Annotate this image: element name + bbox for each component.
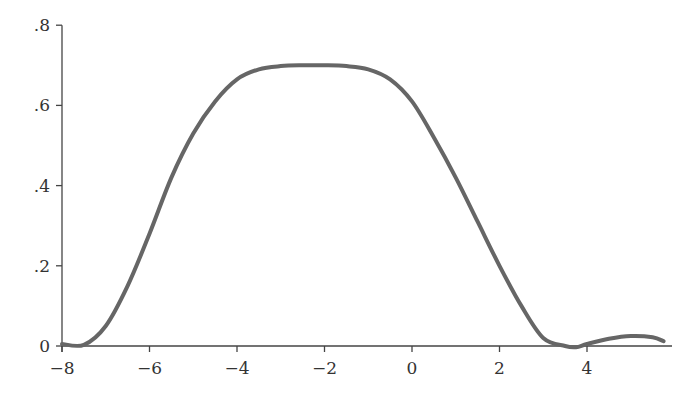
y-tick-label: .2 bbox=[34, 256, 50, 276]
tick-labels: 0.2.4.6.8−8−6−4−2024 bbox=[34, 15, 593, 378]
x-tick-label: −2 bbox=[312, 358, 337, 378]
y-tick-label: .6 bbox=[34, 95, 50, 115]
axis-ticks bbox=[56, 25, 587, 352]
y-tick-label: .4 bbox=[34, 176, 50, 196]
x-tick-label: −4 bbox=[224, 358, 249, 378]
data-line bbox=[62, 65, 664, 347]
axes bbox=[62, 25, 672, 352]
x-tick-label: −6 bbox=[137, 358, 162, 378]
line-chart: 0.2.4.6.8−8−6−4−2024 bbox=[0, 0, 692, 403]
y-tick-label: 0 bbox=[39, 336, 50, 356]
x-tick-label: 4 bbox=[582, 358, 593, 378]
y-tick-label: .8 bbox=[34, 15, 50, 35]
x-tick-label: 0 bbox=[407, 358, 418, 378]
x-tick-label: −8 bbox=[49, 358, 74, 378]
x-tick-label: 2 bbox=[494, 358, 505, 378]
